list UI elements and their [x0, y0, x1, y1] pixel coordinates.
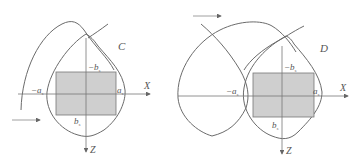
panel-c: C X Z −as as −bs bs: [12, 22, 151, 155]
panel-label-d: D: [319, 42, 328, 54]
neg-b-label-d: −bs: [284, 62, 297, 73]
boundary-line-c: [88, 24, 108, 38]
pos-b-label-c: bs: [74, 116, 81, 127]
pos-a-label-c: as: [117, 85, 124, 96]
neg-b-label-c: −bs: [88, 62, 101, 73]
z-axis-label-c: Z: [90, 144, 96, 155]
neg-a-label-d: −as: [226, 86, 239, 97]
pos-b-label-d: bs: [272, 120, 279, 131]
x-axis-label-c: X: [143, 80, 151, 91]
pos-a-label-d: as: [313, 86, 320, 97]
diagram-canvas: C X Z −as as −bs bs D X Z −as as −bs bs: [0, 0, 358, 164]
panel-label-c: C: [118, 40, 126, 52]
x-axis-label-d: X: [339, 82, 347, 93]
neg-a-label-c: −as: [31, 85, 44, 96]
z-axis-label-d: Z: [286, 145, 292, 156]
section-rect-d: [253, 73, 314, 117]
panel-d: D X Z −as as −bs bs: [178, 16, 348, 156]
boundary-line-d: [244, 26, 304, 70]
